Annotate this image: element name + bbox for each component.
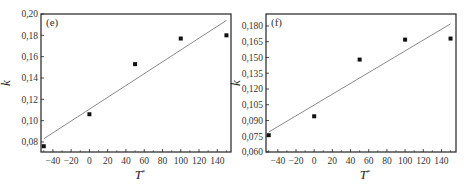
x-tick-label: −40 — [270, 156, 285, 166]
y-tick-label: 0,08 — [21, 137, 38, 147]
x-tick-label: 100 — [174, 156, 189, 166]
x-tick-label: 120 — [192, 156, 207, 166]
chart-panel-e: −40−200204060801001201400,080,100,120,14… — [0, 9, 231, 182]
x-tick-label: −40 — [45, 156, 60, 166]
y-tick-label: 0,20 — [21, 9, 38, 19]
plot-frame — [41, 14, 231, 152]
x-tick-label: 20 — [103, 156, 113, 166]
x-tick-label: 0 — [312, 156, 317, 166]
y-tick-label: 0,150 — [242, 53, 264, 63]
data-point-marker — [403, 38, 407, 42]
x-tick-label: 80 — [158, 156, 168, 166]
y-tick-label: 0,14 — [21, 73, 38, 83]
y-tick-label: 0,060 — [242, 147, 264, 157]
y-tick-label: 0,105 — [242, 100, 264, 110]
y-tick-label: 0,165 — [242, 37, 264, 47]
data-point-marker — [267, 133, 271, 137]
figure-canvas: −40−200204060801001201400,080,100,120,14… — [0, 0, 466, 185]
data-point-marker — [312, 114, 316, 118]
data-point-marker — [449, 37, 453, 41]
x-tick-label: 120 — [416, 156, 431, 166]
chart-panel-f: −40−200204060801001201400,0600,0750,0900… — [228, 14, 456, 182]
x-tick-label: 60 — [364, 156, 374, 166]
x-tick-label: 140 — [210, 156, 225, 166]
x-tick-label: 140 — [434, 156, 449, 166]
y-axis-label: k — [0, 80, 13, 86]
linear-fit-line — [269, 24, 451, 132]
panel-label: (e) — [46, 16, 59, 29]
x-tick-label: −20 — [289, 156, 304, 166]
x-axis-label: T* — [360, 167, 371, 182]
y-tick-label: 0,090 — [242, 116, 264, 126]
y-tick-label: 0,18 — [21, 31, 38, 41]
y-tick-label: 0,12 — [21, 95, 38, 105]
y-tick-label: 0,180 — [242, 21, 264, 31]
data-point-marker — [179, 37, 183, 41]
linear-fit-line — [44, 20, 227, 138]
y-tick-label: 0,135 — [242, 69, 264, 79]
data-point-marker — [42, 144, 46, 148]
x-axis-label: T* — [135, 167, 146, 182]
x-tick-label: 0 — [87, 156, 92, 166]
x-axis: −40−20020406080100120140 — [269, 149, 451, 166]
x-axis: −40−20020406080100120140 — [44, 149, 227, 166]
x-tick-label: −20 — [64, 156, 79, 166]
data-point-marker — [358, 58, 362, 62]
x-tick-label: 20 — [328, 156, 338, 166]
x-tick-label: 80 — [382, 156, 392, 166]
x-tick-label: 40 — [346, 156, 356, 166]
y-axis-label: k — [228, 80, 243, 86]
y-tick-label: 0,075 — [242, 132, 264, 142]
data-point-marker — [224, 33, 228, 37]
y-tick-label: 0,16 — [21, 52, 38, 62]
x-tick-label: 100 — [398, 156, 413, 166]
panel-label: (f) — [271, 16, 282, 29]
y-axis: 0,0600,0750,0900,1050,1200,1350,1500,165… — [242, 21, 269, 157]
data-point-marker — [133, 62, 137, 66]
y-tick-label: 0,120 — [242, 84, 264, 94]
y-tick-label: 0,10 — [21, 116, 38, 126]
plot-frame — [266, 14, 456, 152]
x-tick-label: 40 — [121, 156, 131, 166]
x-tick-label: 60 — [139, 156, 149, 166]
data-point-marker — [87, 112, 91, 116]
